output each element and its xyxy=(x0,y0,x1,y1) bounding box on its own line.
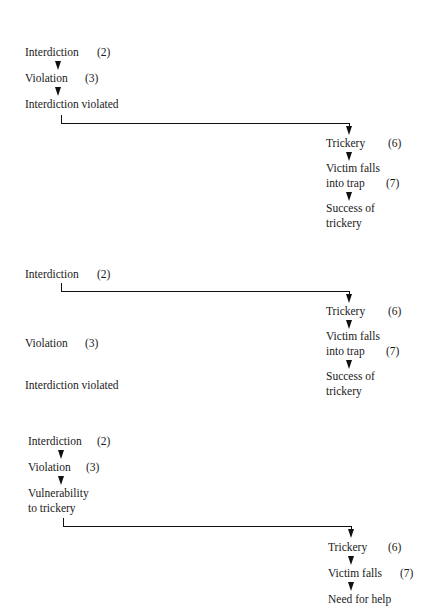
node-vulnerability: Vulnerability xyxy=(28,487,89,500)
node-violation: Violation xyxy=(25,72,68,85)
arrow-down-icon xyxy=(55,61,61,70)
node-interdiction-violated: Interdiction violated xyxy=(25,379,119,392)
arrow-down-icon xyxy=(346,192,352,201)
node-number: (6) xyxy=(388,541,401,554)
arrow-down-icon xyxy=(55,87,61,96)
node-number: (3) xyxy=(85,72,98,85)
node-victim-falls-line2: into trap xyxy=(326,177,365,190)
node-number: (6) xyxy=(388,305,401,318)
arrow-down-icon xyxy=(58,476,64,485)
node-number: (2) xyxy=(97,268,110,281)
node-number: (2) xyxy=(97,46,110,59)
connector-line xyxy=(61,123,350,124)
arrow-down-icon xyxy=(346,294,352,303)
node-success: Success of xyxy=(326,370,375,383)
node-success-line2: trickery xyxy=(326,217,362,230)
node-success-line2: trickery xyxy=(326,385,362,398)
arrow-down-icon xyxy=(348,582,354,591)
node-violation: Violation xyxy=(28,461,71,474)
node-victim-falls: Victim falls xyxy=(326,162,380,175)
node-need-for-help: Need for help xyxy=(328,593,391,606)
node-success: Success of xyxy=(326,202,375,215)
arrow-down-icon xyxy=(346,360,352,369)
node-vulnerability-line2: to trickery xyxy=(28,502,76,515)
node-trickery: Trickery xyxy=(328,541,367,554)
node-interdiction: Interdiction xyxy=(28,435,82,448)
node-victim-falls: Victim falls xyxy=(326,330,380,343)
arrow-down-icon xyxy=(58,450,64,459)
node-trickery: Trickery xyxy=(326,137,365,150)
arrow-down-icon xyxy=(348,556,354,565)
node-interdiction: Interdiction xyxy=(25,46,79,59)
connector-line xyxy=(63,526,352,527)
node-number: (3) xyxy=(85,337,98,350)
node-number: (6) xyxy=(388,137,401,150)
node-interdiction: Interdiction xyxy=(25,268,79,281)
node-victim-falls-line2: into trap xyxy=(326,345,365,358)
node-trickery: Trickery xyxy=(326,305,365,318)
arrow-down-icon xyxy=(346,152,352,161)
node-victim-falls: Victim falls xyxy=(328,567,382,580)
arrow-down-icon xyxy=(346,126,352,135)
connector-line xyxy=(61,291,350,292)
node-number: (3) xyxy=(86,461,99,474)
node-number: (2) xyxy=(97,435,110,448)
arrow-down-icon xyxy=(346,320,352,329)
arrow-down-icon xyxy=(348,529,354,538)
node-number: (7) xyxy=(386,177,399,190)
node-interdiction-violated: Interdiction violated xyxy=(25,98,119,111)
node-violation: Violation xyxy=(25,337,68,350)
node-number: (7) xyxy=(386,345,399,358)
node-number: (7) xyxy=(400,567,413,580)
